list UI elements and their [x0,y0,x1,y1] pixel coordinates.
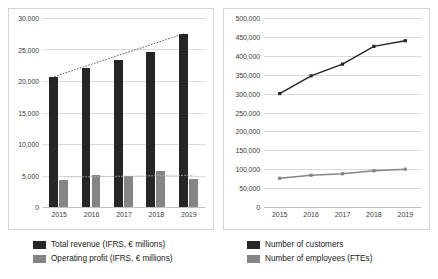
legend-label-number-of-customers: Number of customers [265,239,343,250]
legend-item-total-revenue: Total revenue (IFRS, € millions) [33,239,173,250]
legend-swatch-number-of-employees [247,255,260,263]
legend-item-number-of-employees: Number of employees (FTEs) [247,253,372,264]
legend-item-number-of-customers: Number of customers [247,239,372,250]
legend-swatch-operating-profit [33,255,46,263]
legend-label-total-revenue: Total revenue (IFRS, € millions) [51,239,165,250]
data-point-marker [372,45,375,48]
trendline [54,34,184,77]
legend-swatch-number-of-customers [247,241,260,249]
data-point-marker [310,74,313,77]
figure-root: 05,00010,00015,00020,00025,00030,0002015… [0,0,438,279]
data-point-marker [278,177,281,180]
customers-employees-chart-panel: 050,000100,000150,000200,000250,000300,0… [223,8,430,230]
data-point-marker [404,39,407,42]
revenue-profit-chart-panel: 05,00010,00015,00020,00025,00030,0002015… [8,8,214,230]
trendline-layer [9,9,213,229]
data-point-marker [341,172,344,175]
data-point-marker [341,63,344,66]
data-point-marker [278,92,281,95]
revenue-profit-legend: Total revenue (IFRS, € millions) Operati… [33,239,173,267]
line-series-layer [224,9,429,229]
data-point-marker [372,169,375,172]
customers-employees-plot-area: 050,000100,000150,000200,000250,000300,0… [224,9,429,229]
revenue-profit-plot-area: 05,00010,00015,00020,00025,00030,0002015… [9,9,213,229]
customers-employees-legend: Number of customers Number of employees … [247,239,372,267]
legend-label-operating-profit: Operating profit (IFRS, € millions) [51,253,173,264]
legend-swatch-total-revenue [33,241,46,249]
data-point-marker [404,168,407,171]
legend-item-operating-profit: Operating profit (IFRS, € millions) [33,253,173,264]
data-point-marker [310,174,313,177]
legend-label-number-of-employees: Number of employees (FTEs) [265,253,372,264]
line-series [280,41,406,94]
trendline [64,175,194,177]
